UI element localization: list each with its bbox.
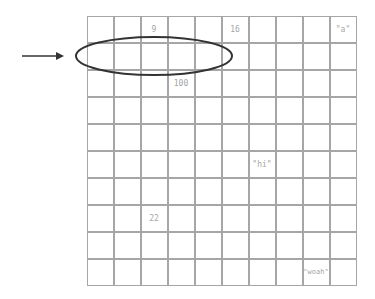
- annotation-layer: [0, 0, 375, 299]
- highlight-ellipse: [76, 37, 232, 75]
- arrow-icon: [22, 52, 64, 60]
